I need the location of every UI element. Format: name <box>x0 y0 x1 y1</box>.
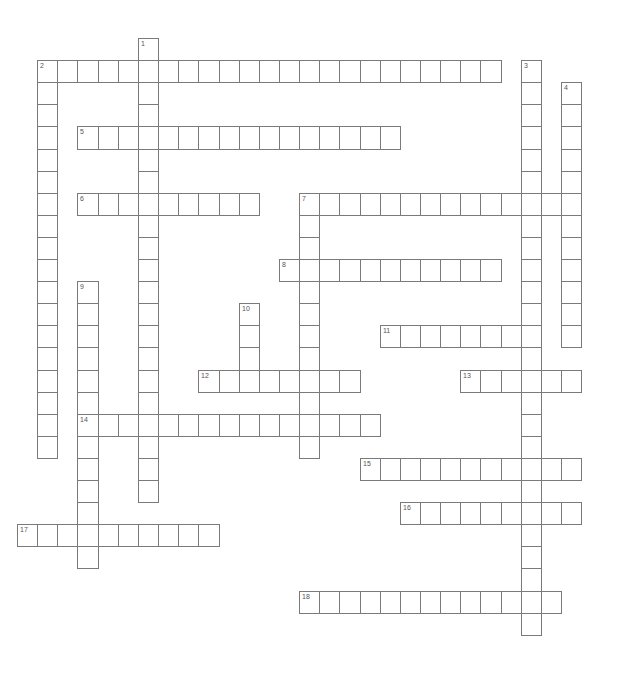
crossword-cell[interactable] <box>37 215 58 238</box>
crossword-cell[interactable] <box>480 591 502 614</box>
crossword-cell[interactable] <box>420 325 441 348</box>
crossword-cell[interactable] <box>380 126 401 150</box>
crossword-cell[interactable] <box>561 171 582 194</box>
crossword-cell[interactable]: 2 <box>37 60 58 83</box>
crossword-cell[interactable] <box>77 524 99 547</box>
crossword-cell[interactable] <box>521 149 542 172</box>
crossword-cell[interactable] <box>279 60 300 83</box>
crossword-cell[interactable] <box>138 458 159 481</box>
crossword-cell[interactable] <box>561 126 582 150</box>
crossword-cell[interactable] <box>380 60 401 83</box>
crossword-cell[interactable]: 1 <box>138 38 159 61</box>
crossword-cell[interactable]: 6 <box>77 193 99 216</box>
crossword-cell[interactable] <box>138 436 159 459</box>
crossword-cell[interactable] <box>219 414 240 437</box>
crossword-cell[interactable] <box>239 193 260 216</box>
crossword-cell[interactable] <box>77 502 99 525</box>
crossword-cell[interactable] <box>561 303 582 326</box>
crossword-cell[interactable] <box>37 259 58 282</box>
crossword-cell[interactable] <box>138 480 159 503</box>
crossword-cell[interactable] <box>279 414 300 437</box>
crossword-cell[interactable]: 7 <box>299 193 320 216</box>
crossword-cell[interactable] <box>561 370 582 393</box>
crossword-cell[interactable] <box>521 613 542 636</box>
crossword-cell[interactable] <box>198 126 220 150</box>
crossword-cell[interactable] <box>138 524 159 547</box>
crossword-cell[interactable] <box>77 325 99 348</box>
crossword-cell[interactable] <box>460 325 481 348</box>
crossword-cell[interactable] <box>239 414 260 437</box>
crossword-cell[interactable] <box>219 193 240 216</box>
crossword-cell[interactable] <box>440 591 461 614</box>
crossword-cell[interactable] <box>521 414 542 437</box>
crossword-cell[interactable] <box>400 591 421 614</box>
crossword-cell[interactable] <box>521 104 542 127</box>
crossword-cell[interactable] <box>178 60 199 83</box>
crossword-cell[interactable] <box>158 126 179 150</box>
crossword-cell[interactable] <box>77 436 99 459</box>
crossword-cell[interactable] <box>239 325 260 348</box>
crossword-cell[interactable] <box>360 193 381 216</box>
crossword-cell[interactable] <box>521 259 542 282</box>
crossword-cell[interactable]: 15 <box>360 458 381 481</box>
crossword-cell[interactable] <box>440 325 461 348</box>
crossword-cell[interactable] <box>299 325 320 348</box>
crossword-cell[interactable] <box>521 458 542 481</box>
crossword-cell[interactable] <box>521 126 542 150</box>
crossword-cell[interactable] <box>178 126 199 150</box>
crossword-cell[interactable] <box>319 370 340 393</box>
crossword-cell[interactable] <box>299 303 320 326</box>
crossword-cell[interactable] <box>400 60 421 83</box>
crossword-cell[interactable] <box>138 281 159 304</box>
crossword-cell[interactable] <box>77 60 99 83</box>
crossword-cell[interactable] <box>521 546 542 569</box>
crossword-cell[interactable] <box>501 591 522 614</box>
crossword-cell[interactable] <box>138 392 159 415</box>
crossword-cell[interactable] <box>77 392 99 415</box>
crossword-cell[interactable] <box>339 193 361 216</box>
crossword-cell[interactable] <box>521 502 542 525</box>
crossword-cell[interactable] <box>339 591 361 614</box>
crossword-cell[interactable] <box>299 281 320 304</box>
crossword-cell[interactable] <box>440 60 461 83</box>
crossword-cell[interactable] <box>138 60 159 83</box>
crossword-cell[interactable] <box>501 193 522 216</box>
crossword-cell[interactable] <box>561 259 582 282</box>
crossword-cell[interactable] <box>400 193 421 216</box>
crossword-cell[interactable] <box>259 370 280 393</box>
crossword-cell[interactable] <box>178 524 199 547</box>
crossword-cell[interactable] <box>37 524 58 547</box>
crossword-cell[interactable] <box>420 591 441 614</box>
crossword-cell[interactable] <box>98 524 119 547</box>
crossword-cell[interactable] <box>380 259 401 282</box>
crossword-cell[interactable] <box>541 458 562 481</box>
crossword-cell[interactable] <box>339 414 361 437</box>
crossword-cell[interactable] <box>138 193 159 216</box>
crossword-cell[interactable] <box>37 436 58 459</box>
crossword-cell[interactable] <box>37 392 58 415</box>
crossword-cell[interactable] <box>138 347 159 371</box>
crossword-cell[interactable] <box>420 458 441 481</box>
crossword-cell[interactable] <box>37 82 58 105</box>
crossword-cell[interactable] <box>420 259 441 282</box>
crossword-cell[interactable] <box>239 60 260 83</box>
crossword-cell[interactable]: 11 <box>380 325 401 348</box>
crossword-cell[interactable] <box>138 259 159 282</box>
crossword-cell[interactable] <box>521 237 542 260</box>
crossword-cell[interactable] <box>219 370 240 393</box>
crossword-cell[interactable] <box>239 347 260 371</box>
crossword-cell[interactable] <box>138 171 159 194</box>
crossword-cell[interactable] <box>480 370 502 393</box>
crossword-cell[interactable] <box>138 104 159 127</box>
crossword-cell[interactable]: 14 <box>77 414 99 437</box>
crossword-cell[interactable] <box>380 193 401 216</box>
crossword-cell[interactable] <box>521 568 542 592</box>
crossword-cell[interactable] <box>521 370 542 393</box>
crossword-cell[interactable] <box>98 60 119 83</box>
crossword-cell[interactable] <box>299 392 320 415</box>
crossword-cell[interactable] <box>37 104 58 127</box>
crossword-cell[interactable] <box>57 524 78 547</box>
crossword-cell[interactable] <box>521 436 542 459</box>
crossword-cell[interactable] <box>37 414 58 437</box>
crossword-cell[interactable] <box>501 370 522 393</box>
